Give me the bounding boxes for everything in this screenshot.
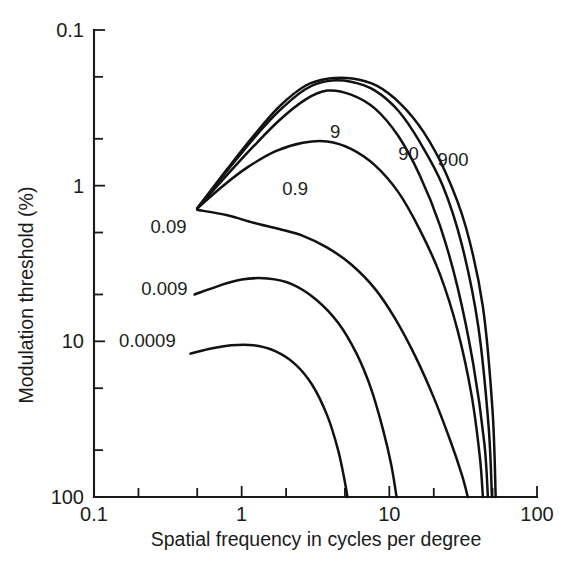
x-tick-label: 100 bbox=[520, 503, 553, 525]
curve-0.009 bbox=[195, 278, 397, 497]
x-axis-tick-labels: 0.1110100 bbox=[80, 503, 554, 525]
y-axis-title: Modulation threshold (%) bbox=[15, 187, 37, 404]
x-tick-label: 10 bbox=[378, 503, 400, 525]
curve-label-90: 90 bbox=[398, 143, 419, 164]
curve-label-0.0009: 0.0009 bbox=[119, 330, 176, 351]
chart-canvas: 0.1110100 0.1110100 0.00090.0090.090.999… bbox=[0, 0, 569, 562]
curve-0.0009 bbox=[190, 345, 347, 497]
curve-0.9 bbox=[197, 141, 483, 497]
x-axis-ticks bbox=[94, 486, 537, 497]
curve-label-0.9: 0.9 bbox=[282, 178, 308, 199]
y-tick-label: 100 bbox=[51, 486, 84, 508]
curve-0.09 bbox=[197, 210, 468, 497]
axes-frame bbox=[94, 30, 537, 497]
contrast-sensitivity-figure: 0.1110100 0.1110100 0.00090.0090.090.999… bbox=[0, 0, 569, 562]
curve-label-0.09: 0.09 bbox=[151, 216, 187, 237]
y-tick-label: 10 bbox=[62, 330, 84, 352]
curve-label-9: 9 bbox=[330, 121, 340, 142]
curve-labels: 0.00090.0090.090.9990900 bbox=[119, 121, 468, 352]
curve-900 bbox=[197, 78, 495, 497]
curve-label-900: 900 bbox=[438, 149, 469, 170]
x-tick-label: 0.1 bbox=[80, 503, 108, 525]
y-axis-ticks bbox=[94, 30, 105, 497]
y-tick-label: 0.1 bbox=[56, 19, 84, 41]
data-curves bbox=[190, 78, 495, 497]
curve-label-0.009: 0.009 bbox=[141, 278, 187, 299]
x-tick-label: 1 bbox=[236, 503, 247, 525]
y-axis-tick-labels: 0.1110100 bbox=[51, 19, 84, 508]
x-axis-title: Spatial frequency in cycles per degree bbox=[151, 528, 482, 550]
y-tick-label: 1 bbox=[73, 175, 84, 197]
